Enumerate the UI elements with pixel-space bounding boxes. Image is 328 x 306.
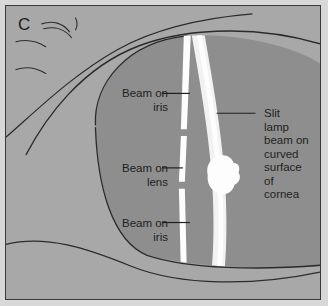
callout-slit-lamp-beam: Slit lamp beam on curved surface of corn… (264, 107, 321, 202)
callout-beam-on-iris-bottom: Beam on iris (86, 217, 168, 244)
panel-letter-label: C (18, 16, 30, 33)
figure-frame: C Beam on iris Beam on lens Beam on iris… (5, 5, 321, 300)
callout-beam-on-lens: Beam on lens (86, 162, 168, 189)
callout-beam-on-iris-top: Beam on iris (92, 87, 168, 114)
figure-root: C Beam on iris Beam on lens Beam on iris… (0, 0, 328, 306)
